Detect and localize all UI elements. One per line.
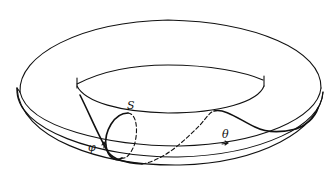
meridian-loop-back [122,113,136,158]
torus-diagram: S θ φ [0,0,336,174]
inner-hole-top [77,65,263,84]
rim-middle-edge [17,88,323,157]
phi-label: φ [88,141,96,154]
outer-rim-top [20,20,321,92]
inner-hole-bottom [77,86,264,113]
theta-label: θ [222,128,229,141]
surface-label-S: S [127,99,135,112]
rim-lower-edge [17,88,323,165]
